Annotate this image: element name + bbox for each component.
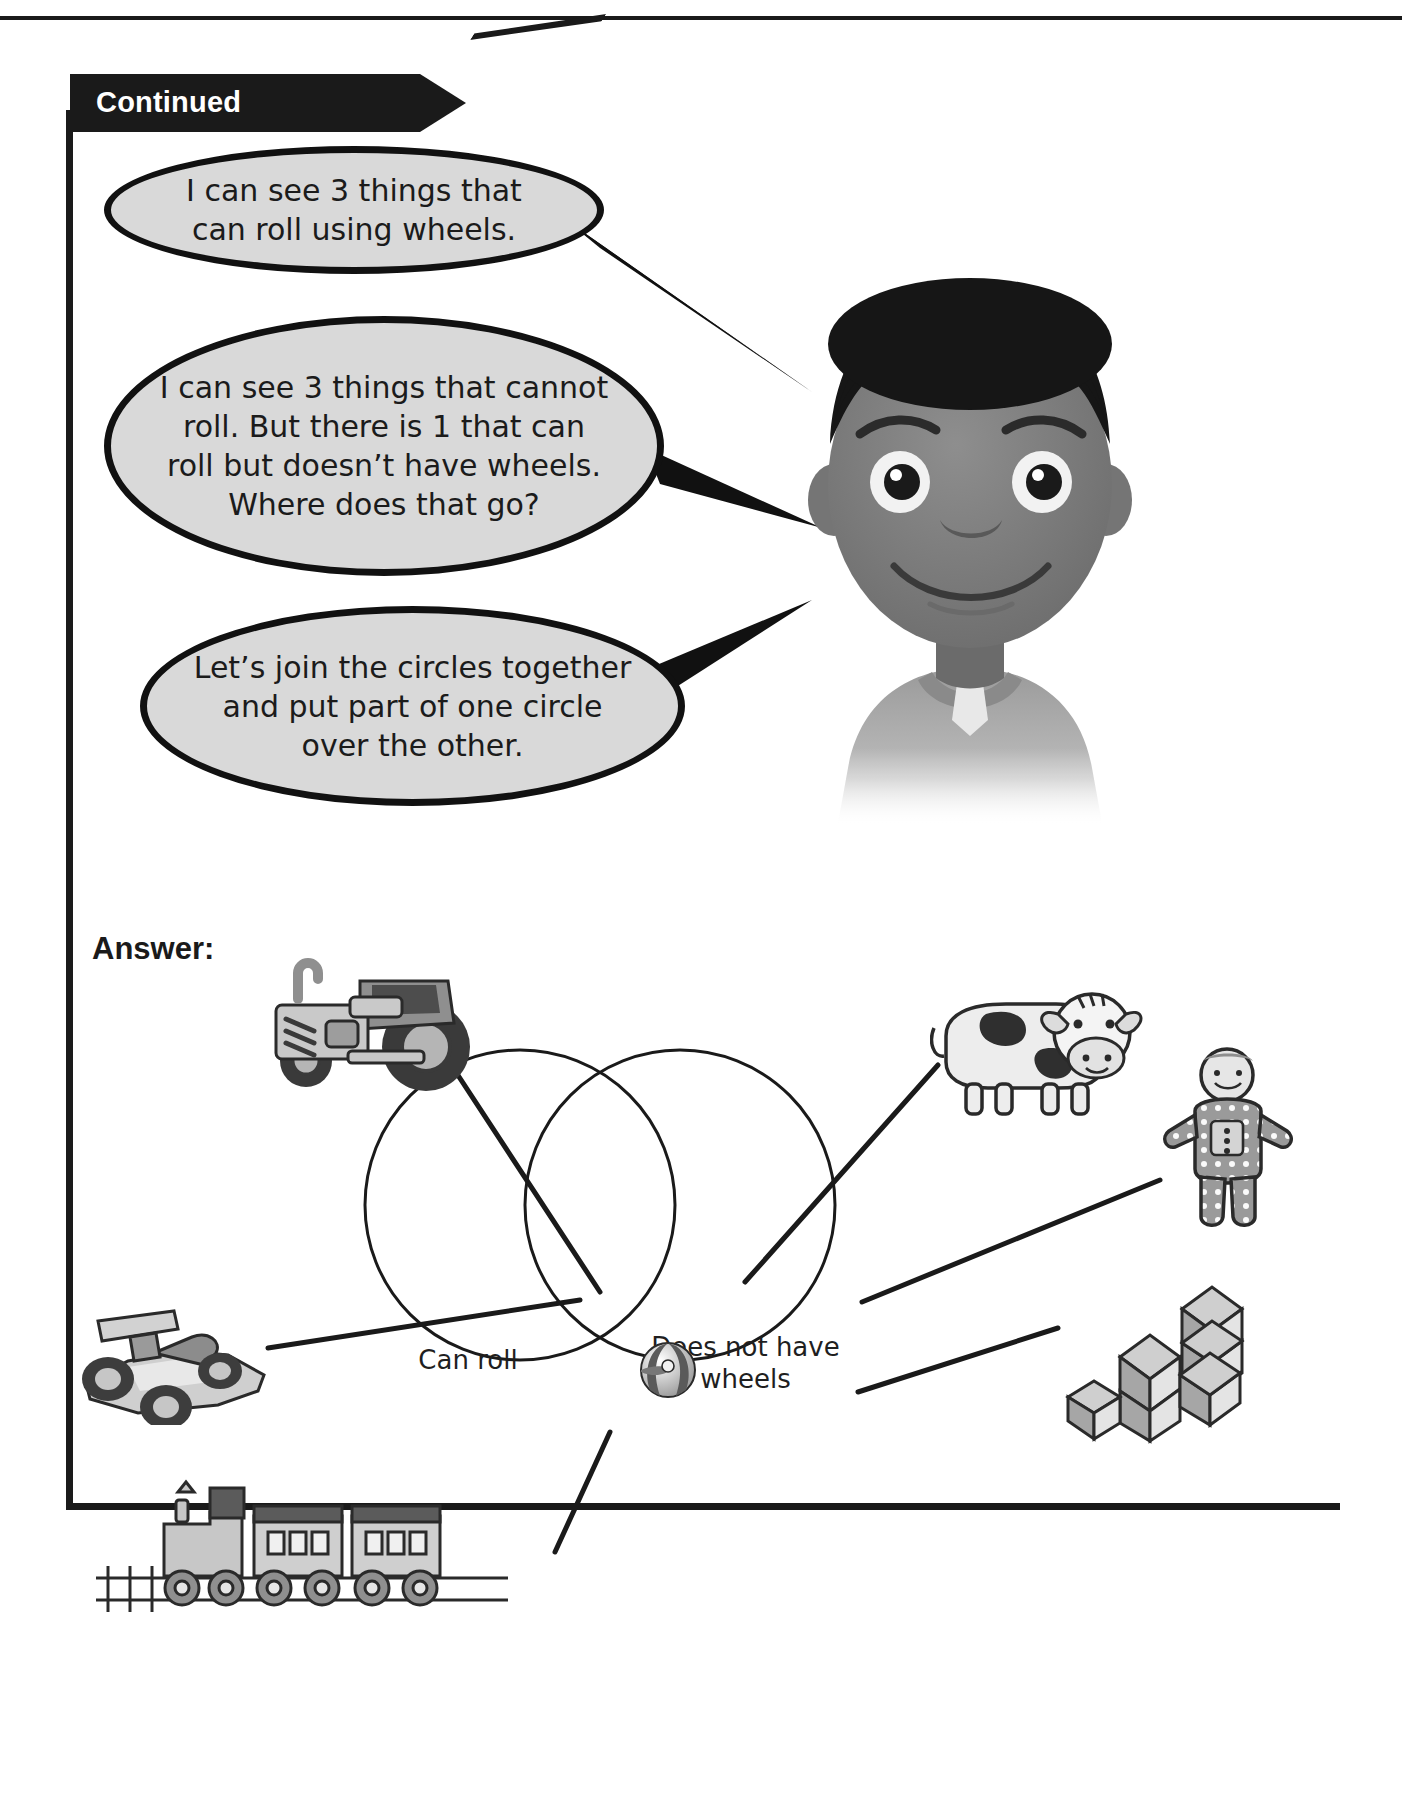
beachball-image xyxy=(638,1340,698,1400)
doll-image xyxy=(1155,1045,1300,1240)
speech-bubble-2: I can see 3 things that cannot roll. But… xyxy=(104,316,664,576)
speech-bubble-2-text: I can see 3 things that cannot roll. But… xyxy=(111,368,657,524)
venn-circle-left xyxy=(365,1050,675,1360)
racecar-image xyxy=(68,1295,288,1425)
answer-label: Answer: xyxy=(92,931,214,967)
speech-bubble-1: I can see 3 things that can roll using w… xyxy=(104,146,604,274)
blocks-image xyxy=(1060,1275,1250,1445)
venn-circle-right xyxy=(525,1050,835,1360)
worksheet-page: Continued I can see 3 things that can ro… xyxy=(0,0,1402,1810)
speech-bubble-1-text: I can see 3 things that can roll using w… xyxy=(111,171,597,249)
venn-left-label: Can roll xyxy=(388,1345,548,1377)
speech-bubble-3-text: Let’s join the circles together and put … xyxy=(147,648,678,765)
speech-bubble-3: Let’s join the circles together and put … xyxy=(140,606,685,806)
tractor-image xyxy=(240,955,490,1095)
cow-image xyxy=(930,980,1145,1120)
train-image xyxy=(90,1470,510,1635)
boy-illustration xyxy=(790,248,1150,823)
